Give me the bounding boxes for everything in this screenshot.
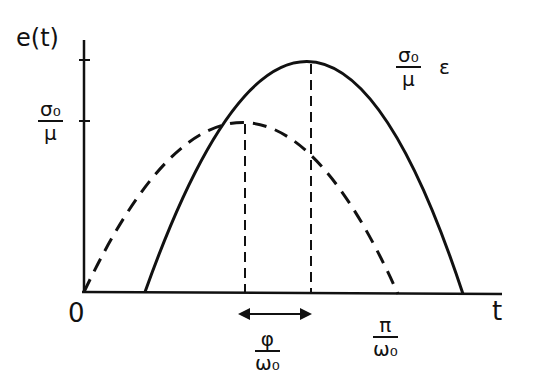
half-period-label: π ω₀ [373,314,398,360]
dashed-curve [84,122,398,294]
origin-label: 0 [68,298,85,328]
x-axis [82,292,502,294]
arrow-right-icon [300,308,312,320]
curve-label: σ₀ μ [396,44,421,90]
solid-curve [145,61,463,294]
curve-label-suffix: ε [439,55,450,79]
y-axis-label: e(t) [16,24,59,52]
x-axis-label: t [492,296,502,326]
diagram: e(t) 0 t σ₀ μ σ₀ μ ε φ ω₀ π ω₀ [0,0,536,388]
y-tick-label: σ₀ μ [38,98,63,144]
arrow-left-icon [238,308,250,320]
phase-label: φ ω₀ [255,328,280,374]
